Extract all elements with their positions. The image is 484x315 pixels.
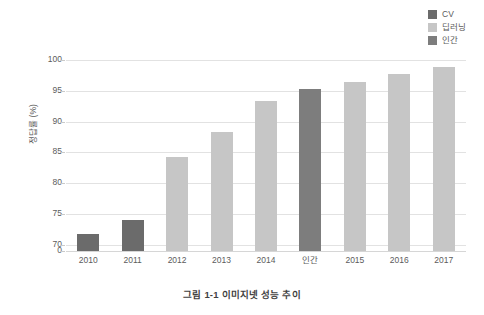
x-tick-label: 2011 [110, 256, 154, 265]
y-tick-mark [60, 152, 65, 153]
bar-slot [77, 60, 99, 251]
y-tick-label: 70 [22, 240, 62, 249]
bar-slot [344, 60, 366, 251]
x-tick-label: 인간 [288, 256, 332, 265]
bar-slot [211, 60, 233, 251]
bar[interactable] [166, 157, 188, 251]
y-tick-label: 100 [22, 55, 62, 64]
y-tick-label: 85 [22, 147, 62, 156]
x-tick-label: 2017 [422, 256, 466, 265]
x-tick-label: 2014 [244, 256, 288, 265]
y-tick-mark [60, 214, 65, 215]
bar-slot [122, 60, 144, 251]
x-axis-labels: 20102011201220132014인간201520162017 [66, 256, 466, 272]
bar[interactable] [299, 89, 321, 251]
x-tick-label: 2016 [377, 256, 421, 265]
y-tick-mark [60, 245, 65, 246]
bar[interactable] [77, 234, 99, 251]
bar-slot [255, 60, 277, 251]
x-tick-label: 2010 [66, 256, 110, 265]
y-tick-mark [60, 183, 65, 184]
bar-slot [388, 60, 410, 251]
bar[interactable] [211, 132, 233, 251]
plot-wrapper: 정답률 (%) 20102011201220132014인간2015201620… [0, 0, 484, 315]
x-tick-label: 2015 [333, 256, 377, 265]
y-tick-mark [60, 251, 65, 252]
y-tick-label: 75 [22, 209, 62, 218]
y-tick-mark [60, 122, 65, 123]
y-tick-mark [60, 60, 65, 61]
bar[interactable] [255, 101, 277, 251]
y-tick-mark [60, 91, 65, 92]
y-tick-label: 90 [22, 117, 62, 126]
x-tick-label: 2013 [199, 256, 243, 265]
figure-caption: 그림 1-1 이미지넷 성능 추이 [0, 287, 484, 301]
y-tick-label: 80 [22, 178, 62, 187]
figure-container: CV딥러닝인간 정답률 (%) 20102011201220132014인간20… [0, 0, 484, 315]
bar[interactable] [433, 67, 455, 251]
bar[interactable] [388, 74, 410, 251]
bar-slot [433, 60, 455, 251]
bars-group [66, 60, 466, 251]
bar-slot [299, 60, 321, 251]
y-tick-label: 95 [22, 86, 62, 95]
bar[interactable] [344, 82, 366, 251]
gridline [66, 251, 466, 252]
bar-slot [166, 60, 188, 251]
x-tick-label: 2012 [155, 256, 199, 265]
bar[interactable] [122, 220, 144, 251]
